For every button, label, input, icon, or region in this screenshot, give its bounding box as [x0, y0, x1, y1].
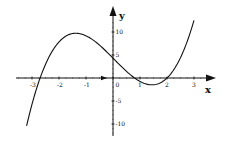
y-axis-arrow-icon	[110, 6, 117, 16]
y-tick-label: 10	[116, 28, 124, 35]
x-tick-label: -3	[30, 81, 36, 88]
y-tick-label: -5	[116, 97, 122, 104]
function-plot: -3-2-10123 105-5-10 y x	[0, 0, 232, 147]
function-curve	[27, 20, 194, 126]
x-tick-label: -2	[57, 81, 63, 88]
x-tick-label: 3	[192, 81, 196, 88]
x-tick-label: 0	[116, 81, 120, 88]
y-tick-label: -10	[116, 120, 126, 127]
x-tick-label: 2	[165, 81, 169, 88]
y-axis-label: y	[118, 10, 126, 21]
axes: -3-2-10123 105-5-10 y x	[16, 6, 216, 136]
y-tick-label: 5	[116, 51, 120, 58]
x-tick-label: -1	[84, 81, 90, 88]
x-axis-label: x	[205, 84, 212, 95]
